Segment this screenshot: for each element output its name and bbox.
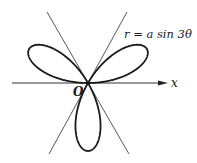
x-axis-label: x (171, 76, 178, 90)
origin-label: O (73, 85, 83, 99)
rose-curve (28, 45, 148, 151)
rose-curve-diagram (0, 0, 197, 163)
x-axis-arrowhead (158, 81, 168, 86)
equation-label: r = a sin 3θ (124, 27, 192, 41)
